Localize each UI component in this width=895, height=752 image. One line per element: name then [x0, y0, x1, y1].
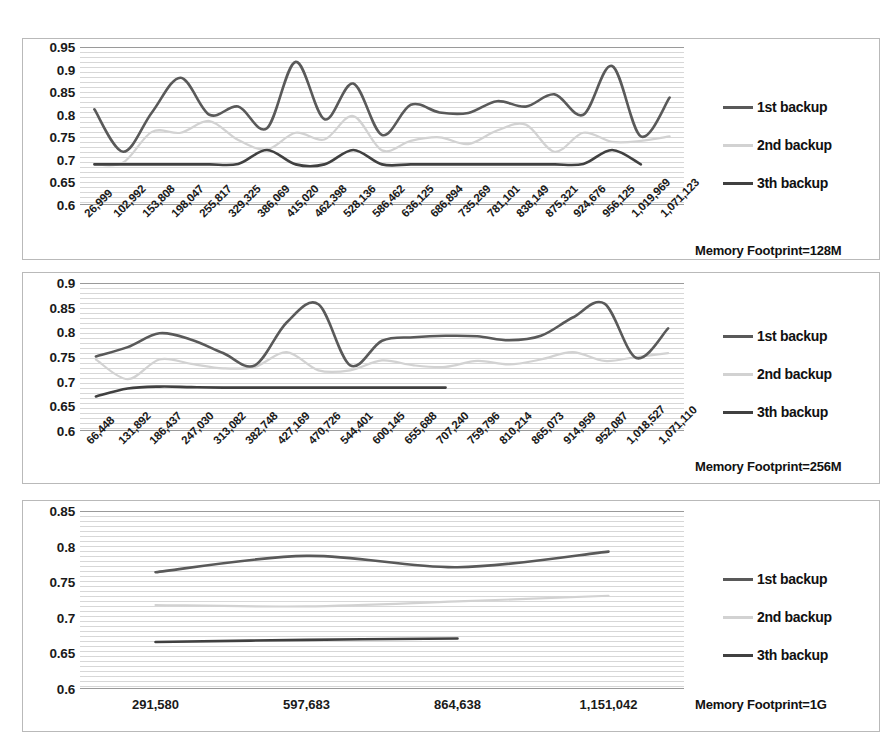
y-axis-tick: 0.7: [57, 152, 75, 167]
y-axis-panel-2: 0.90.850.80.750.70.650.6: [23, 283, 75, 431]
legend-item-3th-backup[interactable]: 3th backup: [723, 404, 828, 420]
y-axis-tick: 0.6: [57, 682, 75, 697]
footprint-caption-256m: Memory Footprint=256M: [695, 459, 841, 474]
legend-line-swatch-icon: [723, 616, 753, 619]
plot-area-panel-3: [80, 511, 684, 689]
legend-item-1st-backup[interactable]: 1st backup: [723, 99, 827, 115]
y-axis-tick: 0.65: [50, 399, 75, 414]
legend-line-swatch-icon: [723, 578, 753, 581]
legend-item-label: 1st backup: [757, 571, 827, 587]
legend-item-3th-backup[interactable]: 3th backup: [723, 647, 828, 663]
footprint-caption-1g: Memory Footprint=1G: [695, 697, 827, 712]
series-line-1st-backup: [156, 552, 609, 573]
series-line-1st-backup: [96, 302, 668, 367]
y-axis-panel-1: 0.950.90.850.80.750.70.650.6: [23, 47, 75, 205]
series-line-3th-backup: [94, 150, 640, 166]
chart-panel-128m: 0.950.90.850.80.750.70.650.6 26,999102,9…: [22, 38, 880, 260]
series-line-3th-backup: [96, 387, 446, 397]
x-axis-tick-label: 1,151,042: [580, 697, 638, 712]
x-axis-tick-label: 291,580: [132, 697, 179, 712]
legend-item-2nd-backup[interactable]: 2nd backup: [723, 366, 832, 382]
legend-line-swatch-icon: [723, 373, 753, 376]
series-line-2nd-backup: [94, 116, 669, 165]
y-axis-tick: 0.65: [50, 175, 75, 190]
y-axis-tick: 0.7: [57, 610, 75, 625]
plot-area-panel-1: [80, 47, 684, 205]
y-axis-panel-3: 0.850.80.750.70.650.6: [23, 511, 75, 689]
legend-item-label: 2nd backup: [757, 137, 832, 153]
legend-line-swatch-icon: [723, 106, 753, 109]
x-axis-tick-label: 864,638: [434, 697, 481, 712]
legend-line-swatch-icon: [723, 144, 753, 147]
y-axis-tick: 0.9: [57, 276, 75, 291]
plot-area-panel-2: [80, 283, 684, 431]
y-axis-tick: 0.85: [50, 504, 75, 519]
legend-item-label: 3th backup: [757, 175, 828, 191]
y-axis-tick: 0.9: [57, 62, 75, 77]
y-axis-tick: 0.75: [50, 575, 75, 590]
legend-item-2nd-backup[interactable]: 2nd backup: [723, 609, 832, 625]
y-axis-tick: 0.8: [57, 539, 75, 554]
legend-item-label: 3th backup: [757, 404, 828, 420]
legend-item-1st-backup[interactable]: 1st backup: [723, 328, 827, 344]
series-line-1st-backup: [94, 62, 669, 152]
x-axis-tick-label: 597,683: [283, 697, 330, 712]
y-axis-tick: 0.75: [50, 130, 75, 145]
y-axis-tick: 0.75: [50, 350, 75, 365]
legend-item-1st-backup[interactable]: 1st backup: [723, 571, 827, 587]
series-line-3th-backup: [156, 638, 458, 642]
series-lines-panel-2: [80, 283, 684, 431]
legend-item-2nd-backup[interactable]: 2nd backup: [723, 137, 832, 153]
figure-root: 0.950.90.850.80.750.70.650.6 26,999102,9…: [0, 0, 895, 752]
legend-item-3th-backup[interactable]: 3th backup: [723, 175, 828, 191]
series-line-2nd-backup: [96, 352, 668, 379]
legend-item-label: 2nd backup: [757, 609, 832, 625]
chart-panel-256m: 0.90.850.80.750.70.650.6 66,448131,89218…: [22, 272, 880, 484]
legend-item-label: 3th backup: [757, 647, 828, 663]
legend-line-swatch-icon: [723, 182, 753, 185]
chart-panel-1g: 0.850.80.750.70.650.6 291,580597,683864,…: [22, 500, 880, 732]
legend-item-label: 1st backup: [757, 99, 827, 115]
x-axis-labels-panel-1: 26,999102,992153,808198,047255,817329,32…: [23, 211, 879, 271]
legend-line-swatch-icon: [723, 335, 753, 338]
y-axis-tick: 0.8: [57, 325, 75, 340]
series-lines-panel-1: [80, 47, 684, 205]
y-axis-tick: 0.6: [57, 424, 75, 439]
legend-line-swatch-icon: [723, 411, 753, 414]
y-axis-tick: 0.7: [57, 374, 75, 389]
legend-line-swatch-icon: [723, 654, 753, 657]
footprint-caption-128m: Memory Footprint=128M: [695, 243, 841, 258]
y-axis-tick: 0.95: [50, 40, 75, 55]
legend-item-label: 2nd backup: [757, 366, 832, 382]
y-axis-tick: 0.85: [50, 85, 75, 100]
series-lines-panel-3: [80, 511, 684, 689]
legend-item-label: 1st backup: [757, 328, 827, 344]
y-axis-tick: 0.8: [57, 107, 75, 122]
series-line-2nd-backup: [156, 596, 609, 607]
y-axis-tick: 0.65: [50, 646, 75, 661]
y-axis-tick: 0.85: [50, 300, 75, 315]
